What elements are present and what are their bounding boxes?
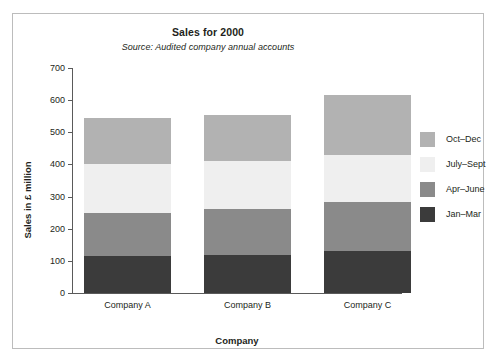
bar-segment[interactable] [324,95,411,154]
y-axis-title: Sales in £ million [22,130,33,270]
bar-segment[interactable] [204,115,291,162]
y-tick-mark [68,197,72,198]
legend-label: July–Sept [446,159,486,169]
x-axis-title: Company [72,335,402,346]
y-tick-mark [68,132,72,133]
bar-stack[interactable] [204,115,291,293]
legend-label: Oct–Dec [446,134,481,144]
bar-segment[interactable] [84,256,171,293]
bar-stack[interactable] [84,118,171,293]
y-tick-mark [68,164,72,165]
bar-segment[interactable] [204,209,291,255]
y-tick-mark [68,68,72,69]
y-tick-label: 400 [50,159,65,169]
chart-legend: Oct–DecJuly–SeptApr–JuneJan–Mar [420,132,486,232]
y-tick-label: 500 [50,127,65,137]
legend-item[interactable]: July–Sept [420,157,486,171]
legend-swatch [420,157,435,172]
x-tick-label: Company B [183,300,313,310]
legend-swatch [420,182,435,197]
bar-segment[interactable] [324,251,411,293]
bar-segment[interactable] [84,118,171,165]
legend-item[interactable]: Apr–June [420,182,486,196]
y-tick-mark [68,261,72,262]
chart-figure-frame: Sales for 2000 Source: Audited company a… [12,13,484,349]
y-tick-label: 0 [60,288,65,298]
bar-stack[interactable] [324,95,411,293]
x-tick-label: Company C [303,300,433,310]
plot-area: 0100200300400500600700 Company ACompany … [72,68,402,294]
chart-subtitle: Source: Audited company annual accounts [13,42,403,52]
bar-segment[interactable] [204,255,291,293]
chart-title: Sales for 2000 [13,26,403,38]
bar-segment[interactable] [84,213,171,256]
y-tick-label: 100 [50,256,65,266]
legend-label: Apr–June [446,184,485,194]
legend-swatch [420,132,435,147]
bar-segment[interactable] [324,202,411,251]
legend-swatch [420,207,435,222]
y-tick-label: 200 [50,224,65,234]
x-tick-label: Company A [63,300,193,310]
y-tick-mark [68,293,72,294]
x-axis-line [72,293,402,294]
bar-segment[interactable] [84,164,171,212]
legend-item[interactable]: Jan–Mar [420,207,486,221]
y-tick-mark [68,100,72,101]
bar-segment[interactable] [204,161,291,209]
legend-item[interactable]: Oct–Dec [420,132,486,146]
legend-label: Jan–Mar [446,209,481,219]
y-tick-label: 600 [50,95,65,105]
y-tick-label: 300 [50,192,65,202]
bar-segment[interactable] [324,155,411,203]
y-tick-mark [68,229,72,230]
y-tick-label: 700 [50,63,65,73]
y-axis-line [72,68,73,294]
